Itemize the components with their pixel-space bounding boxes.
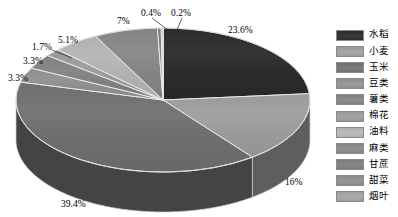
legend-swatch — [336, 30, 364, 41]
legend-item[interactable]: 油料 — [336, 124, 398, 140]
slice-percent-label: 16% — [285, 178, 302, 188]
slice-percent-label: 3.3% — [8, 74, 28, 84]
legend-swatch — [336, 191, 364, 202]
pie-plot-area: 23.6%16%39.4%3.3%3.3%1.7%5.1%7%0.4%0.2% — [0, 0, 330, 217]
legend-swatch — [336, 111, 364, 122]
legend-item[interactable]: 麻类 — [336, 140, 398, 156]
slice-percent-label: 5.1% — [58, 36, 78, 46]
legend-item[interactable]: 棉花 — [336, 108, 398, 124]
legend-label: 玉米 — [369, 63, 389, 73]
pie-slice-tops — [16, 28, 310, 172]
chart-legend: 水稻小麦玉米豆类薯类棉花油料麻类甘蔗甜菜烟叶 — [336, 27, 398, 211]
legend-label: 小麦 — [369, 47, 389, 57]
slice-percent-label: 39.4% — [61, 200, 86, 210]
legend-item[interactable]: 玉米 — [336, 59, 398, 75]
legend-swatch — [336, 94, 364, 105]
legend-label: 甜菜 — [369, 176, 389, 186]
pie-chart-figure: 23.6%16%39.4%3.3%3.3%1.7%5.1%7%0.4%0.2% … — [0, 0, 398, 217]
legend-label: 豆类 — [369, 79, 389, 89]
legend-item[interactable]: 烟叶 — [336, 189, 398, 205]
legend-label: 麻类 — [369, 144, 389, 154]
legend-item[interactable]: 甜菜 — [336, 173, 398, 189]
pie-slice[interactable] — [163, 28, 309, 100]
legend-label: 棉花 — [369, 111, 389, 121]
legend-swatch — [336, 62, 364, 73]
legend-label: 甘蔗 — [369, 160, 389, 170]
legend-label: 水稻 — [369, 30, 389, 40]
slice-percent-label: 3.3% — [23, 57, 43, 67]
legend-swatch — [336, 46, 364, 57]
legend-swatch — [336, 159, 364, 170]
legend-item[interactable]: 水稻 — [336, 27, 398, 43]
legend-label: 油料 — [369, 127, 389, 137]
legend-label: 烟叶 — [369, 192, 389, 202]
legend-swatch — [336, 175, 364, 186]
legend-item[interactable]: 甘蔗 — [336, 157, 398, 173]
slice-percent-label: 0.2% — [171, 9, 191, 19]
legend-item[interactable]: 薯类 — [336, 92, 398, 108]
pie-svg — [0, 0, 330, 217]
legend-swatch — [336, 127, 364, 138]
legend-swatch — [336, 78, 364, 89]
slice-percent-label: 7% — [117, 17, 130, 27]
slice-percent-label: 1.7% — [32, 43, 52, 53]
legend-item[interactable]: 豆类 — [336, 76, 398, 92]
legend-label: 薯类 — [369, 95, 389, 105]
legend-swatch — [336, 143, 364, 154]
slice-percent-label: 23.6% — [228, 26, 253, 36]
slice-percent-label: 0.4% — [141, 9, 161, 19]
legend-item[interactable]: 小麦 — [336, 43, 398, 59]
